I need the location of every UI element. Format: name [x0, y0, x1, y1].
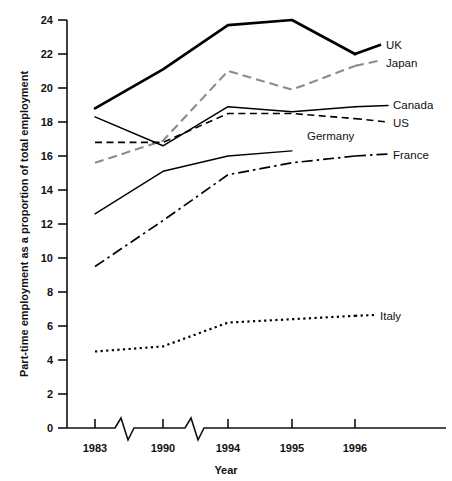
x-axis — [67, 418, 446, 440]
y-tick-4: 4 — [47, 354, 54, 366]
y-tick-2: 2 — [47, 388, 53, 400]
y-axis-title: Part-time employment as a proportion of … — [18, 71, 30, 378]
x-tick-label-1995: 1995 — [280, 442, 304, 454]
line-chart: 24 22 20 18 16 14 12 10 8 6 4 2 0 1983 1… — [0, 0, 452, 481]
y-tick-12: 12 — [41, 218, 53, 230]
y-tick-0: 0 — [47, 422, 53, 434]
y-axis — [58, 20, 67, 428]
series-label-france: France — [393, 149, 429, 161]
x-tick-label-1994: 1994 — [216, 442, 241, 454]
y-tick-10: 10 — [41, 252, 53, 264]
y-tick-labels: 24 22 20 18 16 14 12 10 8 6 4 2 0 — [41, 14, 54, 434]
y-tick-16: 16 — [41, 150, 53, 162]
series-italy — [95, 315, 374, 352]
x-tick-label-1990: 1990 — [151, 442, 175, 454]
y-tick-14: 14 — [41, 184, 54, 196]
series-germany — [95, 151, 292, 214]
series-france — [95, 154, 388, 267]
chart-canvas: 24 22 20 18 16 14 12 10 8 6 4 2 0 1983 1… — [0, 0, 452, 481]
series-uk — [95, 20, 380, 108]
y-tick-22: 22 — [41, 48, 53, 60]
y-tick-18: 18 — [41, 116, 53, 128]
y-tick-8: 8 — [47, 286, 53, 298]
x-axis-title: Year — [214, 464, 238, 476]
x-tick-label-1996: 1996 — [343, 442, 367, 454]
y-tick-24: 24 — [41, 14, 54, 26]
y-tick-20: 20 — [41, 82, 53, 94]
series-label-italy: Italy — [380, 310, 401, 322]
x-tick-labels: 1983 1990 1994 1995 1996 — [83, 442, 367, 454]
x-tick-label-1983: 1983 — [83, 442, 107, 454]
series-japan — [95, 60, 382, 163]
series-label-canada: Canada — [393, 99, 434, 111]
series-label-germany: Germany — [307, 130, 355, 142]
series-label-japan: Japan — [386, 57, 417, 69]
y-tick-6: 6 — [47, 320, 53, 332]
series-label-uk: UK — [386, 39, 402, 51]
series-label-us: US — [393, 117, 409, 129]
